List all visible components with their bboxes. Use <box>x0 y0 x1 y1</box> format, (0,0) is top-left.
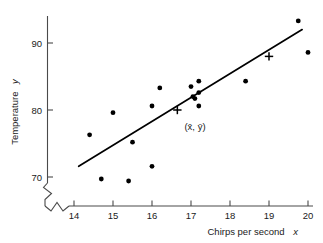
y-tick-label-70: 70 <box>31 172 42 183</box>
plot-canvas: 90 80 70 14 15 16 17 18 19 20 Temperatur… <box>0 0 323 243</box>
x-tick-labels: 14 15 16 17 18 19 20 <box>69 210 314 221</box>
y-axis <box>44 16 54 206</box>
svg-text:Temperature y: Temperature y <box>9 78 20 145</box>
x-tick-label-20: 20 <box>303 210 314 221</box>
data-point <box>157 85 162 90</box>
data-point <box>306 50 311 55</box>
x-axis-title-main: Chirps per second <box>208 226 285 237</box>
x-axis-title-var: x <box>292 226 299 237</box>
x-tick-label-18: 18 <box>225 210 236 221</box>
y-tick-label-80: 80 <box>31 105 42 116</box>
data-point <box>126 179 131 184</box>
x-tick-label-16: 16 <box>147 210 158 221</box>
y-axis-title-main: Temperature <box>9 92 20 145</box>
regression-line-layer <box>79 30 302 167</box>
x-axis-break-icon <box>45 203 69 212</box>
cross-markers-layer <box>173 52 273 114</box>
data-point <box>150 164 155 169</box>
data-point <box>87 132 92 137</box>
y-axis-title-var: y <box>9 78 20 85</box>
data-point <box>111 110 116 115</box>
x-tick-label-14: 14 <box>69 210 80 221</box>
data-point <box>196 104 201 109</box>
y-axis-title: Temperature y <box>9 78 20 145</box>
regression-line <box>79 30 302 167</box>
data-point <box>99 177 104 182</box>
data-point <box>243 79 248 84</box>
x-tick-label-19: 19 <box>264 210 275 221</box>
y-tick-label-90: 90 <box>31 38 42 49</box>
x-axis-title: Chirps per second x <box>208 226 300 237</box>
data-point <box>193 96 198 101</box>
data-point <box>196 79 201 84</box>
scatterplot-figure: 90 80 70 14 15 16 17 18 19 20 Temperatur… <box>0 0 323 243</box>
svg-text:Chirps per second x: Chirps per second x <box>208 226 300 237</box>
data-point <box>296 18 301 23</box>
x-tick-label-15: 15 <box>108 210 119 221</box>
x-tick-label-17: 17 <box>186 210 197 221</box>
cross-marker <box>265 52 273 60</box>
data-point <box>150 104 155 109</box>
data-point <box>130 140 135 145</box>
y-axis-break-icon <box>44 183 52 206</box>
data-point <box>196 90 201 95</box>
data-point <box>189 84 194 89</box>
centroid-annotation-label: (x̄, ȳ) <box>184 121 205 132</box>
y-tick-labels: 90 80 70 <box>31 38 42 183</box>
data-points-layer <box>87 18 310 183</box>
